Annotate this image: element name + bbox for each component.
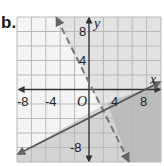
coordinate-plane: -8 -4 O 4 8 8 4 -8 x y (0, 0, 164, 166)
y-tick-8: 8 (79, 24, 86, 39)
x-tick-neg4: -4 (45, 94, 57, 109)
x-tick-8: 8 (140, 94, 147, 109)
x-axis-label: x (149, 72, 157, 87)
y-axis-label: y (92, 16, 101, 31)
x-tick-neg8: -8 (17, 94, 29, 109)
y-tick-neg8: -8 (70, 140, 82, 155)
y-tick-4: 4 (79, 53, 86, 68)
x-tick-4: 4 (111, 94, 118, 109)
origin-label: O (77, 94, 87, 109)
